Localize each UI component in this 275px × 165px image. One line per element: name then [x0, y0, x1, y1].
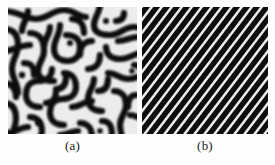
diagonal-stripe-pattern-image	[142, 7, 268, 134]
caption-panel-b: (b)	[142, 136, 268, 156]
labyrinthine-pattern-svg	[8, 7, 137, 134]
labyrinthine-pattern-image	[8, 7, 137, 134]
caption-row: (a) (b)	[0, 136, 275, 158]
panel-b	[142, 7, 268, 134]
caption-panel-a: (a)	[8, 136, 137, 156]
panel-a	[8, 7, 137, 134]
diagonal-stripe-pattern-svg	[142, 7, 268, 134]
figure-container: (a) (b)	[0, 0, 275, 165]
